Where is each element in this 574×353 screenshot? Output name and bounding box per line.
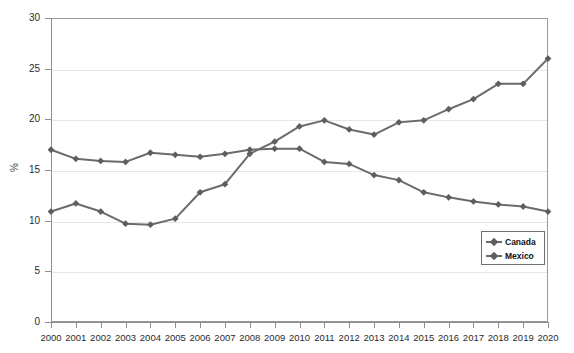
x-tick — [101, 322, 102, 328]
x-tick — [424, 322, 425, 328]
legend-marker-mexico-icon — [486, 251, 502, 261]
x-tick — [300, 322, 301, 328]
y-tick-label: 25 — [0, 64, 40, 74]
x-tick — [523, 322, 524, 328]
legend-label-mexico: Mexico — [505, 252, 534, 261]
y-tick-label: 10 — [0, 216, 40, 226]
x-tick — [349, 322, 350, 328]
y-tick — [45, 170, 51, 171]
legend-item-canada[interactable]: Canada — [486, 235, 540, 249]
y-tick — [45, 18, 51, 19]
gridline — [52, 222, 547, 223]
gridline — [52, 70, 547, 71]
gridline — [52, 171, 547, 172]
x-tick — [51, 322, 52, 328]
legend-item-mexico[interactable]: Mexico — [486, 249, 540, 263]
plot-area — [51, 18, 548, 322]
x-tick — [275, 322, 276, 328]
line-chart: 051015202530 200020012002200320042005200… — [0, 0, 574, 353]
y-tick — [45, 69, 51, 70]
y-axis-title: % — [9, 163, 20, 172]
x-tick — [498, 322, 499, 328]
x-tick — [399, 322, 400, 328]
legend-marker-canada-icon — [486, 237, 502, 247]
x-tick — [175, 322, 176, 328]
x-tick — [200, 322, 201, 328]
y-tick-label: 0 — [0, 317, 40, 327]
y-tick — [45, 119, 51, 120]
x-tick — [250, 322, 251, 328]
x-tick — [324, 322, 325, 328]
x-tick — [548, 322, 549, 328]
x-tick — [374, 322, 375, 328]
gridline — [52, 272, 547, 273]
x-tick — [225, 322, 226, 328]
y-tick — [45, 221, 51, 222]
x-tick — [150, 322, 151, 328]
x-tick — [473, 322, 474, 328]
legend-label-canada: Canada — [505, 238, 536, 247]
legend: Canada Mexico — [481, 231, 545, 265]
gridline — [52, 120, 547, 121]
y-tick-label: 20 — [0, 114, 40, 124]
x-tick-label: 2020 — [528, 332, 568, 343]
y-axis-line — [51, 18, 52, 323]
y-tick-label: 5 — [0, 266, 40, 276]
y-tick — [45, 271, 51, 272]
x-tick — [76, 322, 77, 328]
y-tick-label: 15 — [0, 165, 40, 175]
x-tick — [449, 322, 450, 328]
x-tick — [126, 322, 127, 328]
y-tick-label: 30 — [0, 13, 40, 23]
